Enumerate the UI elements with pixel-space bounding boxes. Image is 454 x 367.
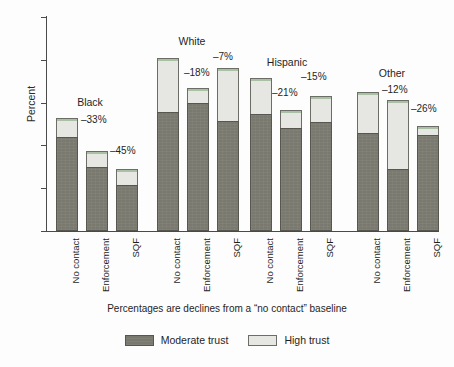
legend-swatch-high-trust-icon [248,335,277,346]
x-tick-label-other-enforcement: Enforcement [402,238,412,292]
y-tick-40 [41,145,46,146]
bar-top-highlight [418,127,438,129]
bar-segment-moderate-trust [56,137,78,231]
bar-top-highlight [281,111,301,113]
bar-segment-moderate-trust [310,122,332,231]
x-tick-label-hispanic-enforcement: Enforcement [295,238,305,292]
legend-swatch-moderate-trust-icon [125,335,154,346]
bar-segment-moderate-trust [387,169,409,231]
x-tick-label-other-sqf: SQF [432,238,442,258]
bar-white-enforcement[interactable] [187,88,209,231]
bar-hispanic-enforcement[interactable] [280,110,302,231]
bar-segment-moderate-trust [280,128,302,231]
x-tick-label-white-enforcement: Enforcement [202,238,212,292]
legend-item-high-trust: High trust [248,334,329,346]
x-axis-caption: Percentages are declines from a “no cont… [0,303,454,314]
bar-top-highlight [388,101,408,103]
pct-label-white-enforcement: –18% [184,68,210,78]
pct-label-other-enforcement: –12% [382,85,408,95]
bar-segment-moderate-trust [417,135,439,231]
bar-segment-moderate-trust [357,133,379,231]
group-label-hispanic: Hispanic [252,57,322,68]
bar-top-highlight [188,89,208,91]
bar-other-no-contact[interactable] [357,92,379,231]
bar-white-sqf[interactable] [217,68,239,231]
x-axis-line [46,231,439,232]
x-tick-label-black-no-contact: No contact [71,238,81,283]
x-tick-label-black-enforcement: Enforcement [101,238,111,292]
x-tick-label-other-no-contact: No contact [372,238,382,283]
group-label-black: Black [60,97,120,108]
chart-figure: 100 80 60 40 20 0 Percent Black White Hi… [0,0,454,367]
pct-label-black-sqf: –45% [110,146,136,156]
bar-hispanic-no-contact[interactable] [250,78,272,231]
pct-label-white-sqf: –7% [213,52,233,62]
bar-other-enforcement[interactable] [387,100,409,231]
group-label-other: Other [362,68,422,79]
y-tick-80 [41,60,46,61]
bar-top-highlight [251,79,271,81]
bar-top-highlight [57,119,77,121]
bar-top-highlight [158,59,178,61]
bar-black-sqf[interactable] [116,169,138,231]
chart-legend: Moderate trust High trust [0,334,454,346]
bar-top-highlight [358,93,378,95]
bar-segment-moderate-trust [116,185,138,231]
x-tick-label-hispanic-sqf: SQF [325,238,335,258]
bar-top-highlight [218,69,238,71]
x-tick-label-hispanic-no-contact: No contact [265,238,275,283]
pct-label-hispanic-sqf: –15% [301,72,327,82]
group-label-white: White [162,36,222,47]
y-tick-100 [41,17,46,18]
bar-segment-moderate-trust [187,103,209,231]
bar-top-highlight [311,97,331,99]
bar-black-enforcement[interactable] [86,151,108,231]
bar-top-highlight [87,152,107,154]
legend-label-moderate-trust: Moderate trust [161,334,229,346]
y-tick-20 [41,188,46,189]
pct-label-black-enforcement: –33% [81,115,107,125]
x-tick-label-black-sqf: SQF [131,238,141,258]
bar-white-no-contact[interactable] [157,58,179,231]
bar-segment-moderate-trust [217,121,239,231]
pct-label-other-sqf: –26% [411,104,437,114]
y-tick-60 [41,103,46,104]
bar-segment-moderate-trust [157,112,179,231]
bar-top-highlight [117,170,137,172]
bar-segment-moderate-trust [86,167,108,231]
pct-label-hispanic-enforcement: –21% [272,88,298,98]
bar-black-no-contact[interactable] [56,118,78,231]
y-axis-title: Percent [25,64,37,144]
bar-other-sqf[interactable] [417,126,439,231]
bar-segment-moderate-trust [250,114,272,231]
x-tick-label-white-no-contact: No contact [172,238,182,283]
legend-item-moderate-trust: Moderate trust [125,334,229,346]
x-tick-label-white-sqf: SQF [232,238,242,258]
legend-label-high-trust: High trust [284,334,329,346]
bar-hispanic-sqf[interactable] [310,96,332,231]
